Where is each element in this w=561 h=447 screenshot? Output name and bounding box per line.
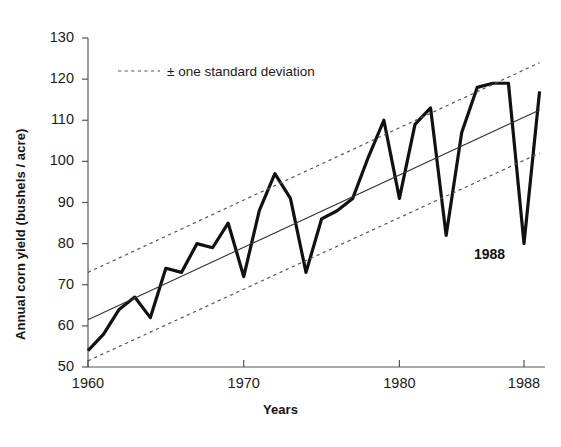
y-axis-title: Annual corn yield (bushels / acre) xyxy=(13,129,28,340)
y-axis-tick-label: 90 xyxy=(34,194,74,210)
x-axis-ticks xyxy=(88,360,524,367)
x-axis-tick-label: 1970 xyxy=(214,375,274,391)
legend-label-std: ± one standard deviation xyxy=(167,64,315,79)
x-axis-title: Years xyxy=(0,402,561,417)
y-axis-tick-label: 130 xyxy=(34,29,74,45)
y-axis-tick-label: 80 xyxy=(34,235,74,251)
series-line xyxy=(88,110,540,320)
chart-series-group xyxy=(88,63,540,361)
y-axis-tick-label: 60 xyxy=(34,317,74,333)
series-line xyxy=(88,153,540,361)
y-axis-tick-label: 120 xyxy=(34,70,74,86)
y-axis-tick-label: 100 xyxy=(34,152,74,168)
x-axis-tick-label: 1960 xyxy=(58,375,118,391)
annotation-1988: 1988 xyxy=(474,246,505,262)
y-axis-tick-label: 50 xyxy=(34,358,74,374)
x-axis-tick-label: 1988 xyxy=(494,375,554,391)
y-axis-tick-label: 110 xyxy=(34,111,74,127)
x-axis-tick-label: 1980 xyxy=(369,375,429,391)
y-axis-tick-label: 70 xyxy=(34,276,74,292)
series-line xyxy=(88,83,540,350)
y-axis-ticks xyxy=(82,38,88,367)
chart-figure: Annual corn yield (bushels / acre) Years… xyxy=(0,0,561,447)
